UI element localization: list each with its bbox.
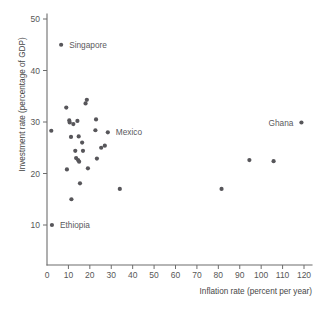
data-point xyxy=(86,166,90,170)
data-point xyxy=(77,160,81,164)
axis-titles-layer: Inflation rate (percent per year)Investm… xyxy=(18,37,312,296)
data-point xyxy=(94,117,98,121)
y-tick-label-20: 20 xyxy=(31,169,41,179)
data-point xyxy=(64,105,68,109)
x-axis-title: Inflation rate (percent per year) xyxy=(200,287,313,296)
x-tick-label-80: 80 xyxy=(214,270,224,280)
x-tick-label-120: 120 xyxy=(297,270,311,280)
x-tick-label-100: 100 xyxy=(254,270,268,280)
x-tick-label-10: 10 xyxy=(64,270,74,280)
point-label-singapore: Singapore xyxy=(69,40,107,50)
y-tick-label-10: 10 xyxy=(31,220,41,230)
data-point xyxy=(93,128,97,132)
x-tick-label-90: 90 xyxy=(235,270,245,280)
x-tick-label-70: 70 xyxy=(192,270,202,280)
x-tick-label-0: 0 xyxy=(45,270,50,280)
data-point xyxy=(271,159,275,163)
y-axis: 1020304050 xyxy=(31,14,47,265)
data-point xyxy=(65,167,69,171)
x-tick-label-50: 50 xyxy=(149,270,159,280)
data-point xyxy=(81,149,85,153)
data-point xyxy=(95,156,99,160)
data-point xyxy=(68,120,72,124)
x-tick-label-30: 30 xyxy=(107,270,117,280)
data-points-layer xyxy=(49,43,303,227)
data-point-singapore xyxy=(59,43,63,47)
data-point xyxy=(73,149,77,153)
point-label-mexico: Mexico xyxy=(116,127,143,137)
data-point xyxy=(83,101,87,105)
point-label-ghana: Ghana xyxy=(269,118,294,128)
data-point-mexico xyxy=(106,130,110,134)
x-axis: 0102030405060708090100110120 xyxy=(45,265,312,280)
data-point xyxy=(85,98,89,102)
y-axis-title: Investment rate (percentage of GDP) xyxy=(18,37,27,172)
data-point xyxy=(103,144,107,148)
y-tick-label-40: 40 xyxy=(31,66,41,76)
data-point xyxy=(69,197,73,201)
data-point xyxy=(77,134,81,138)
data-point xyxy=(80,141,84,145)
data-point xyxy=(247,158,251,162)
point-annotations-layer: SingaporeMexicoGhanaEthiopia xyxy=(60,40,294,230)
data-point xyxy=(49,129,53,133)
point-label-ethiopia: Ethiopia xyxy=(60,220,90,230)
scatter-chart-figure: 1020304050 0102030405060708090100110120 … xyxy=(0,0,327,312)
chart-canvas: 1020304050 0102030405060708090100110120 … xyxy=(0,0,327,312)
data-point xyxy=(71,122,75,126)
x-tick-label-110: 110 xyxy=(276,270,290,280)
data-point xyxy=(75,119,79,123)
y-tick-label-30: 30 xyxy=(31,117,41,127)
data-point-ghana xyxy=(299,120,303,124)
data-point xyxy=(69,135,73,139)
data-point xyxy=(78,181,82,185)
data-point-ethiopia xyxy=(50,223,54,227)
y-tick-label-50: 50 xyxy=(31,14,41,24)
x-tick-label-60: 60 xyxy=(171,270,181,280)
x-tick-label-40: 40 xyxy=(128,270,138,280)
data-point xyxy=(99,146,103,150)
x-tick-label-20: 20 xyxy=(85,270,95,280)
data-point xyxy=(219,187,223,191)
data-point xyxy=(118,187,122,191)
